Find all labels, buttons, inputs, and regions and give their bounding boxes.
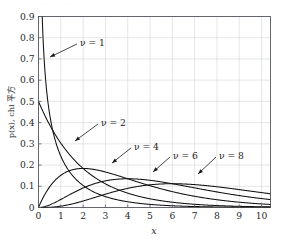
curve-nu-1	[40, 0, 270, 207]
x-tick-label: 10	[256, 210, 268, 221]
grid	[39, 17, 271, 208]
x-tick-label: 9	[236, 210, 242, 221]
curves	[39, 0, 271, 207]
x-tick-label: 3	[102, 210, 108, 221]
x-tick-label: 4	[125, 210, 131, 221]
y-tick-label: 0.2	[20, 159, 35, 170]
y-tick-label: 0.4	[20, 117, 35, 128]
annotation-4: ν = 4	[112, 141, 159, 163]
x-axis-title: x	[151, 225, 157, 236]
annotation-label: ν = 1	[80, 37, 105, 48]
y-tick-label: 0.8	[20, 32, 35, 43]
annotation-label: ν = 2	[101, 117, 126, 128]
chart-svg: 012345678910 00.10.20.30.40.50.60.70.80.…	[0, 0, 281, 245]
y-tick-label: 0.5	[20, 96, 35, 107]
x-tick-label: 5	[147, 210, 153, 221]
chi-squared-pdf-figure: ·· ··· ···· ··· ·· 012345678910 00.10.20…	[0, 0, 281, 245]
y-tick-label: 0.6	[20, 74, 35, 85]
x-tick-label: 6	[169, 210, 175, 221]
plot-frame	[39, 17, 271, 208]
annotation-1: ν = 1	[50, 37, 105, 57]
x-tick-label: 0	[36, 210, 42, 221]
x-tick-label: 1	[58, 210, 64, 221]
curve-nu-4	[39, 168, 271, 207]
x-tick-label: 7	[192, 210, 198, 221]
y-tick-label: 0	[29, 202, 35, 213]
annotation-2: ν = 2	[75, 117, 126, 141]
annotation-8: ν = 8	[198, 150, 244, 174]
y-tick-label: 0.7	[20, 53, 35, 64]
annotation-6: ν = 6	[153, 150, 198, 172]
y-tick-label: 0.3	[20, 138, 35, 149]
y-tick-label: 0.9	[20, 11, 35, 22]
faint-top-artifact: ·· ··· ···· ··· ··	[34, 0, 214, 9]
x-tick-label: 8	[214, 210, 220, 221]
annotation-label: ν = 8	[219, 150, 244, 161]
series-annotations: ν = 1ν = 2ν = 4ν = 6ν = 8	[50, 37, 244, 174]
y-axis-title: p(x), chi 平方	[6, 86, 16, 139]
x-tick-label: 2	[80, 210, 86, 221]
annotation-label: ν = 6	[173, 150, 198, 161]
annotation-label: ν = 4	[134, 141, 159, 152]
y-tick-label: 0.1	[20, 180, 35, 191]
